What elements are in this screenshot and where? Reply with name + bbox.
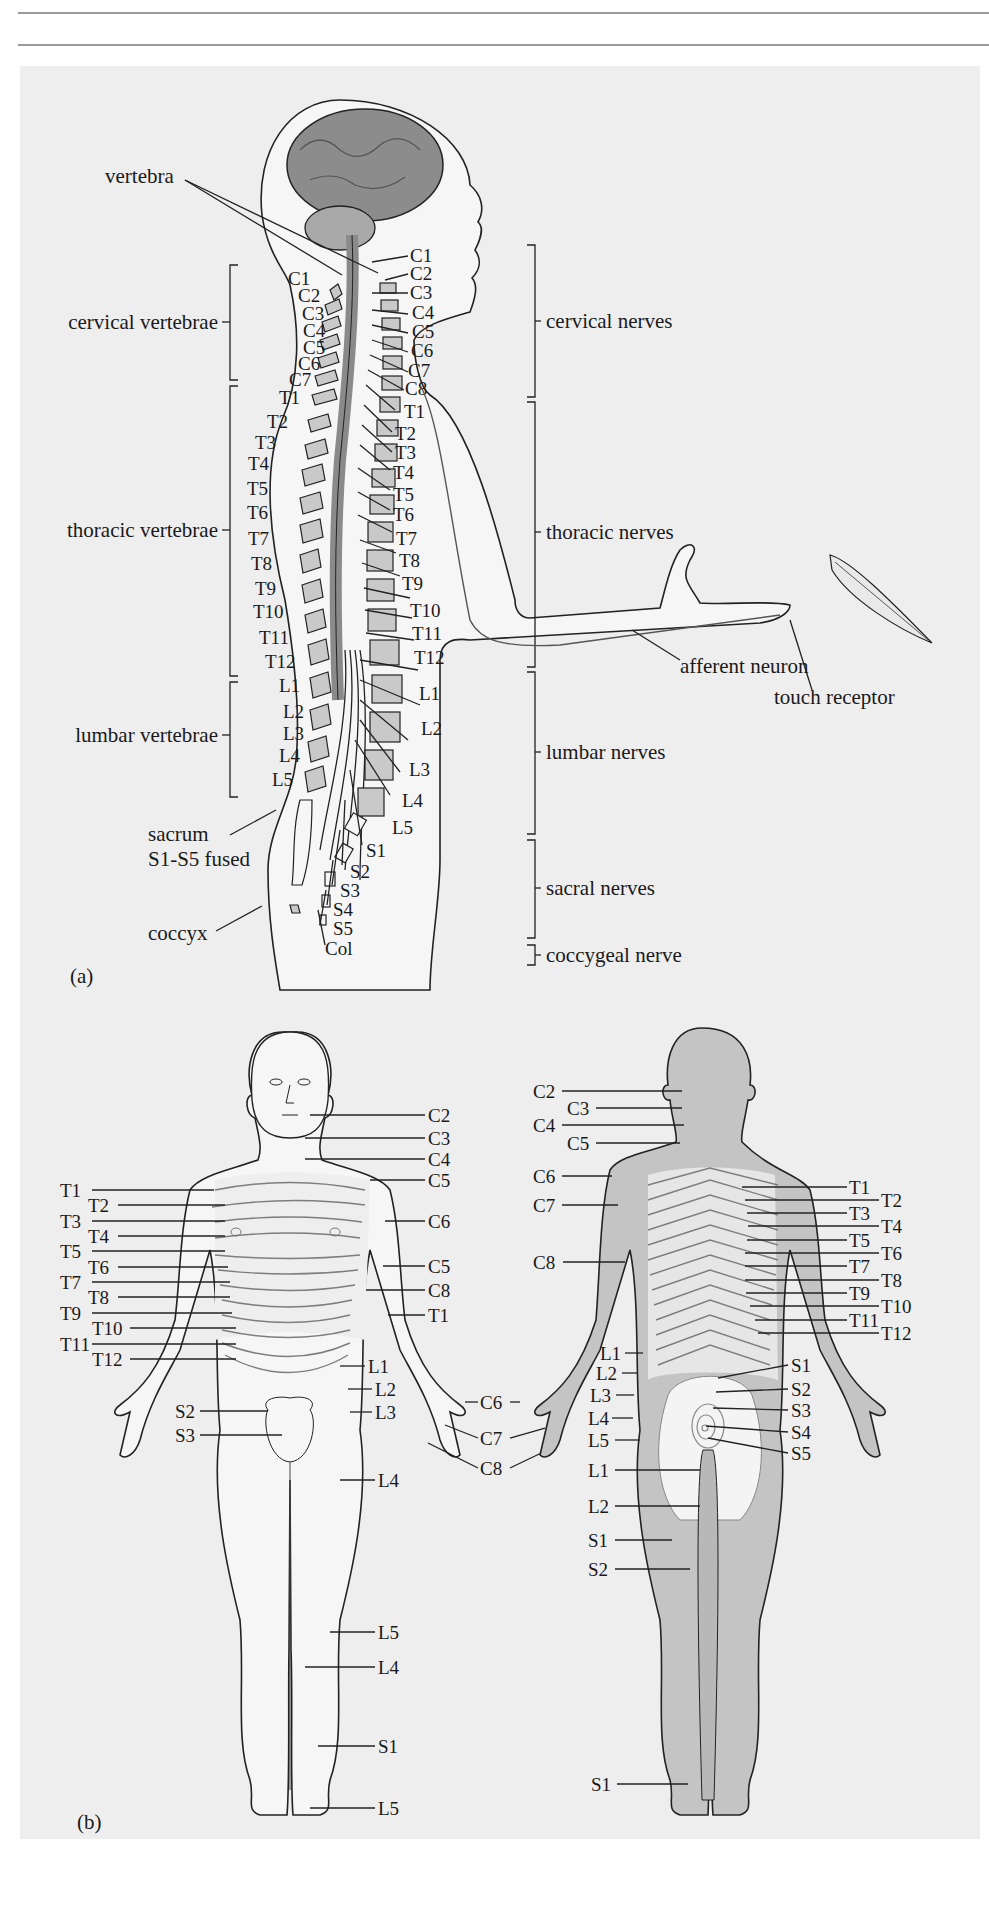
svg-text:T12: T12 — [92, 1349, 123, 1370]
svg-text:C6: C6 — [480, 1392, 502, 1413]
svg-text:S5: S5 — [333, 918, 353, 939]
svg-text:T5: T5 — [60, 1241, 81, 1262]
svg-text:C4: C4 — [533, 1115, 556, 1136]
svg-text:C2: C2 — [533, 1081, 555, 1102]
svg-text:C3: C3 — [428, 1128, 450, 1149]
svg-text:T8: T8 — [399, 550, 420, 571]
coccyx — [290, 905, 300, 913]
svg-text:T7: T7 — [60, 1272, 81, 1293]
svg-text:T7: T7 — [396, 528, 417, 549]
svg-text:T12: T12 — [414, 647, 445, 668]
touch-receptor-icon — [830, 555, 932, 643]
svg-text:S1: S1 — [588, 1530, 608, 1551]
svg-text:S4: S4 — [791, 1422, 812, 1443]
svg-text:T3: T3 — [849, 1203, 870, 1224]
svg-text:C5: C5 — [567, 1133, 589, 1154]
svg-text:T6: T6 — [247, 502, 268, 523]
svg-text:T6: T6 — [393, 504, 414, 525]
callout-afferent-neuron: afferent neuron — [680, 654, 809, 678]
svg-text:C3: C3 — [567, 1098, 589, 1119]
svg-text:L1: L1 — [588, 1460, 609, 1481]
svg-text:C7: C7 — [480, 1428, 502, 1449]
group-lumbar-vertebrae: lumbar vertebrae — [75, 723, 218, 747]
svg-text:S2: S2 — [175, 1401, 195, 1422]
dermatome-figure: vertebra cervical vertebrae thoracic ver… — [0, 0, 989, 1909]
svg-text:T2: T2 — [88, 1195, 109, 1216]
svg-text:T11: T11 — [259, 627, 289, 648]
svg-text:C6: C6 — [411, 340, 433, 361]
svg-text:S2: S2 — [791, 1379, 811, 1400]
svg-text:L3: L3 — [375, 1402, 396, 1423]
svg-text:T10: T10 — [92, 1318, 123, 1339]
svg-text:T11: T11 — [60, 1334, 90, 1355]
svg-text:T4: T4 — [393, 462, 415, 483]
svg-text:C8: C8 — [405, 378, 427, 399]
svg-text:S1: S1 — [366, 840, 386, 861]
svg-text:T1: T1 — [60, 1180, 81, 1201]
svg-text:T1: T1 — [404, 401, 425, 422]
svg-text:L2: L2 — [283, 701, 304, 722]
svg-text:T12: T12 — [881, 1323, 912, 1344]
svg-text:L5: L5 — [378, 1798, 399, 1819]
svg-text:T4: T4 — [881, 1216, 903, 1237]
svg-text:L3: L3 — [283, 723, 304, 744]
svg-text:T3: T3 — [395, 442, 416, 463]
svg-text:T11: T11 — [412, 623, 442, 644]
svg-text:T12: T12 — [265, 651, 296, 672]
callout-touch-receptor: touch receptor — [774, 685, 895, 709]
svg-text:S1: S1 — [791, 1355, 811, 1376]
svg-text:Col: Col — [325, 938, 352, 959]
svg-text:T10: T10 — [253, 601, 284, 622]
svg-text:T7: T7 — [248, 528, 269, 549]
svg-text:T8: T8 — [881, 1270, 902, 1291]
svg-text:T8: T8 — [251, 553, 272, 574]
svg-text:T4: T4 — [248, 453, 270, 474]
svg-text:L4: L4 — [279, 745, 301, 766]
svg-text:S1: S1 — [378, 1736, 398, 1757]
svg-text:T9: T9 — [402, 573, 423, 594]
svg-text:L3: L3 — [409, 759, 430, 780]
svg-text:L3: L3 — [590, 1385, 611, 1406]
svg-text:L4: L4 — [402, 790, 424, 811]
group-cervical-vertebrae: cervical vertebrae — [68, 310, 218, 334]
svg-text:S3: S3 — [175, 1425, 195, 1446]
svg-text:T7: T7 — [849, 1256, 870, 1277]
panel-b-front: T1 T2 T3 T4 T5 T6 T7 T8 T9 T10 T11 T12 S… — [60, 1032, 465, 1819]
svg-text:S2: S2 — [588, 1559, 608, 1580]
svg-text:C7: C7 — [533, 1195, 555, 1216]
svg-text:T6: T6 — [88, 1257, 109, 1278]
group-thoracic-nerves: thoracic nerves — [546, 520, 674, 544]
panel-a-tag: (a) — [70, 964, 93, 988]
svg-text:T2: T2 — [881, 1190, 902, 1211]
callout-sacrum-fused: S1-S5 fused — [148, 847, 251, 871]
svg-text:T10: T10 — [410, 600, 441, 621]
svg-text:T10: T10 — [881, 1296, 912, 1317]
svg-text:C3: C3 — [410, 282, 432, 303]
callout-sacrum: sacrum — [148, 822, 209, 846]
svg-text:C4: C4 — [412, 302, 435, 323]
svg-text:T2: T2 — [395, 423, 416, 444]
brain-icon — [287, 109, 443, 221]
svg-text:C5: C5 — [412, 321, 434, 342]
svg-text:C6: C6 — [428, 1211, 450, 1232]
callout-coccyx: coccyx — [148, 921, 208, 945]
svg-text:T3: T3 — [60, 1211, 81, 1232]
svg-text:S2: S2 — [350, 861, 370, 882]
svg-text:L1: L1 — [419, 683, 440, 704]
vertebrae-brackets — [222, 265, 238, 797]
group-coccygeal-nerve: coccygeal nerve — [546, 943, 682, 967]
svg-text:L5: L5 — [272, 769, 293, 790]
svg-text:T2: T2 — [267, 411, 288, 432]
svg-text:L4: L4 — [378, 1470, 400, 1491]
svg-text:T6: T6 — [881, 1243, 902, 1264]
group-thoracic-vertebrae: thoracic vertebrae — [67, 518, 218, 542]
svg-text:T5: T5 — [849, 1230, 870, 1251]
svg-text:L5: L5 — [392, 817, 413, 838]
svg-text:L1: L1 — [279, 675, 300, 696]
group-sacral-nerves: sacral nerves — [546, 876, 655, 900]
svg-text:T9: T9 — [60, 1303, 81, 1324]
svg-text:C8: C8 — [533, 1252, 555, 1273]
svg-text:C8: C8 — [428, 1280, 450, 1301]
svg-text:T9: T9 — [255, 578, 276, 599]
callout-vertebra: vertebra — [105, 164, 174, 188]
